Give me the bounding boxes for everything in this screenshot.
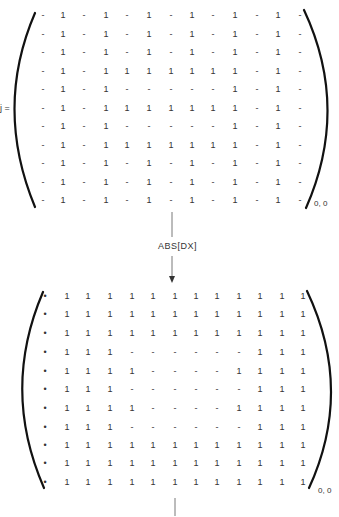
matrix-cell: - — [250, 84, 264, 94]
matrix-cell: 1 — [210, 309, 224, 319]
matrix-cell: - — [293, 29, 307, 39]
matrix-cell: 1 — [275, 366, 289, 376]
matrix-cell: 1 — [142, 29, 156, 39]
matrix-cell: 1 — [271, 103, 285, 113]
matrix-cell: 1 — [228, 10, 242, 20]
matrix-cell: - — [120, 47, 134, 57]
matrix-cell: - — [293, 103, 307, 113]
matrix-cell: 1 — [296, 328, 310, 338]
matrix-cell: 1 — [99, 66, 113, 76]
matrix-cell: 1 — [271, 47, 285, 57]
matrix-cell: - — [146, 403, 160, 413]
matrix-cell: 1 — [142, 177, 156, 187]
matrix-cell: - — [293, 121, 307, 131]
matrix-cell: 1 — [125, 366, 139, 376]
matrix-cell: 1 — [228, 177, 242, 187]
matrix-cell: - — [36, 10, 50, 20]
matrix-cell: - — [120, 84, 134, 94]
matrix-cell: 1 — [168, 458, 182, 468]
matrix-cell: 1 — [99, 121, 113, 131]
matrix-cell: 1 — [125, 458, 139, 468]
matrix-cell: • — [38, 403, 52, 413]
matrix-cell: 1 — [56, 140, 70, 150]
matrix-cell: - — [77, 29, 91, 39]
matrix-cell: 1 — [296, 440, 310, 450]
matrix-cell: 1 — [253, 309, 267, 319]
matrix-cell: - — [168, 366, 182, 376]
matrix-cell: 1 — [185, 66, 199, 76]
matrix-cell: 1 — [142, 47, 156, 57]
matrix-cell: 1 — [60, 328, 74, 338]
matrix-cell: - — [36, 177, 50, 187]
matrix-top-subscript: 0, 0 — [314, 199, 327, 208]
matrix-cell: • — [38, 422, 52, 432]
matrix-cell: - — [120, 121, 134, 131]
matrix-cell: 1 — [142, 66, 156, 76]
matrix-cell: 1 — [210, 458, 224, 468]
matrix-cell: - — [168, 384, 182, 394]
matrix-cell: 1 — [296, 366, 310, 376]
matrix-cell: 1 — [232, 309, 246, 319]
matrix-cell: - — [164, 84, 178, 94]
matrix-cell: - — [210, 384, 224, 394]
matrix-cell: 1 — [146, 328, 160, 338]
matrix-cell: • — [38, 291, 52, 301]
matrix-cell: - — [164, 47, 178, 57]
matrix-cell: - — [250, 177, 264, 187]
matrix-cell: 1 — [120, 103, 134, 113]
matrix-cell: 1 — [232, 440, 246, 450]
matrix-cell: - — [164, 158, 178, 168]
matrix-cell: - — [146, 347, 160, 357]
matrix-cell: - — [206, 195, 220, 205]
matrix-cell: - — [120, 10, 134, 20]
matrix-cell: 1 — [81, 347, 95, 357]
matrix-cell: - — [189, 422, 203, 432]
matrix-cell: - — [210, 366, 224, 376]
matrix-cell: 1 — [271, 195, 285, 205]
matrix-cell: 1 — [164, 140, 178, 150]
matrix-cell: 1 — [189, 291, 203, 301]
matrix-cell: 1 — [185, 158, 199, 168]
matrix-cell: - — [36, 29, 50, 39]
matrix-cell: 1 — [103, 347, 117, 357]
matrix-cell: 1 — [60, 403, 74, 413]
matrix-cell: 1 — [99, 158, 113, 168]
matrix-cell: 1 — [271, 29, 285, 39]
matrix-cell: 1 — [271, 177, 285, 187]
matrix-cell: 1 — [253, 366, 267, 376]
matrix-cell: - — [142, 84, 156, 94]
matrix-cell: 1 — [99, 177, 113, 187]
matrix-cell: - — [250, 103, 264, 113]
matrix-cell: - — [250, 195, 264, 205]
diagram-canvas: j = ABS[DX] -1-1-1-1-1-1--1-1-1-1-1-1--1… — [0, 0, 339, 517]
matrix-cell: - — [77, 47, 91, 57]
matrix-cell: 1 — [56, 47, 70, 57]
matrix-cell: 1 — [103, 291, 117, 301]
matrix-cell: 1 — [189, 328, 203, 338]
matrix-cell: 1 — [60, 440, 74, 450]
matrix-cell: 1 — [296, 384, 310, 394]
matrix-cell: 1 — [185, 177, 199, 187]
matrix-cell: 1 — [232, 403, 246, 413]
matrix-cell: 1 — [81, 458, 95, 468]
matrix-cell: 1 — [253, 384, 267, 394]
matrix-cell: 1 — [125, 328, 139, 338]
matrix-cell: 1 — [228, 29, 242, 39]
matrix-cell: 1 — [81, 309, 95, 319]
matrix-cell: 1 — [271, 66, 285, 76]
right-parenthesis-icon — [304, 10, 328, 208]
matrix-cell: - — [206, 47, 220, 57]
matrix-cell: 1 — [146, 291, 160, 301]
matrix-cell: - — [164, 10, 178, 20]
matrix-cell: - — [164, 195, 178, 205]
matrix-cell: - — [36, 195, 50, 205]
matrix-cell: 1 — [185, 140, 199, 150]
operation-label: ABS[DX] — [157, 241, 198, 251]
matrix-cell: 1 — [60, 384, 74, 394]
matrix-cell: 1 — [56, 66, 70, 76]
matrix-cell: 1 — [296, 291, 310, 301]
matrix-cell: 1 — [189, 458, 203, 468]
matrix-cell: - — [206, 10, 220, 20]
matrix-cell: 1 — [253, 347, 267, 357]
matrix-cell: - — [77, 121, 91, 131]
